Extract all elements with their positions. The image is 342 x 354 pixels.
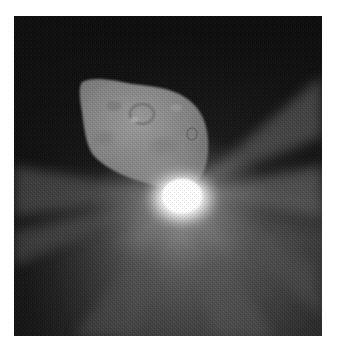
comet-impact-photo: Grayscale space photograph of an irregul… bbox=[14, 16, 322, 336]
comet-impact-image bbox=[14, 16, 322, 336]
